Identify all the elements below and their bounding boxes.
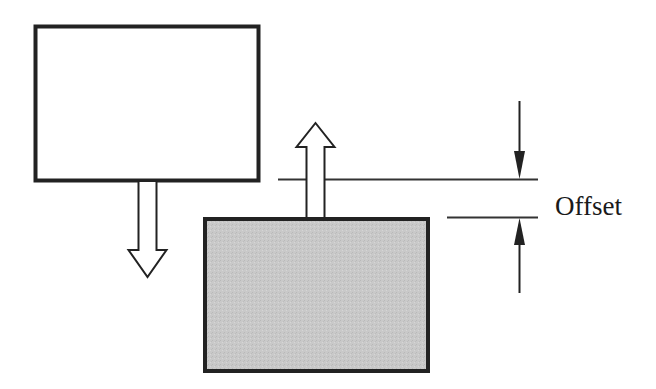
dimension-arrow-down-icon [514, 151, 525, 179]
down-arrow-icon [129, 182, 167, 277]
upper-block [36, 27, 259, 181]
up-arrow-icon [297, 123, 335, 217]
offset-label: Offset [555, 193, 622, 220]
lower-block [205, 219, 428, 371]
